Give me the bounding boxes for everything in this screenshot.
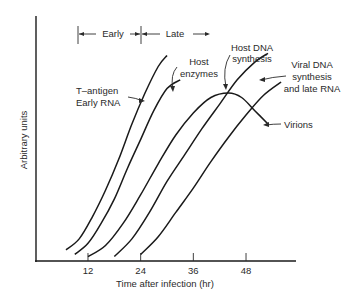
- pointer-arrow: [225, 55, 230, 87]
- series-label-line: Host DNA: [231, 42, 274, 53]
- series-curve-virions: [141, 82, 281, 254]
- chart: Time after infection (hr) Arbitrary unit…: [0, 0, 357, 301]
- x-tick-label: 24: [135, 265, 146, 276]
- series-label-line: enzymes: [180, 68, 218, 79]
- x-tick-label: 36: [188, 265, 199, 276]
- series-label-line: synthesis: [292, 71, 332, 82]
- series-label-line: and late RNA: [284, 83, 341, 94]
- series-label-line: Early RNA: [76, 97, 121, 108]
- series-curve-viral-dna-synthesis-and-late-rna: [114, 53, 268, 256]
- series-label-line: Host: [189, 56, 209, 67]
- series-label-line: T–antigen: [76, 85, 118, 96]
- arrowhead: [259, 77, 265, 82]
- label-t-antigen: T–antigen Early RNA: [76, 85, 145, 108]
- early-arrowhead-left: [79, 32, 84, 36]
- phase-label-late: Late: [166, 28, 185, 39]
- arrowhead: [170, 86, 175, 92]
- y-axis-label: Arbitrary units: [18, 110, 29, 169]
- arrowhead: [223, 84, 228, 90]
- late-arrowhead-left: [142, 32, 147, 36]
- x-axis-label: Time after infection (hr): [116, 278, 214, 289]
- pointer-arrow: [172, 67, 177, 89]
- phase-label-early: Early: [102, 28, 124, 39]
- label-host-enzymes: Host enzymes: [170, 56, 218, 92]
- series-label-line: Viral DNA: [291, 59, 333, 70]
- series-label-line: synthesis: [232, 53, 272, 64]
- late-arrowhead-right: [205, 32, 210, 36]
- label-virions: Virions: [263, 119, 313, 130]
- phase-bracket: Early Late: [78, 26, 210, 44]
- label-host-dna: Host DNA synthesis: [223, 42, 274, 90]
- series-curve-host-dna-synthesis: [88, 93, 268, 257]
- early-arrowhead-right: [135, 32, 140, 36]
- x-tick-label: 48: [241, 265, 252, 276]
- series-label-line: Virions: [284, 119, 313, 130]
- x-tick-label: 12: [83, 265, 94, 276]
